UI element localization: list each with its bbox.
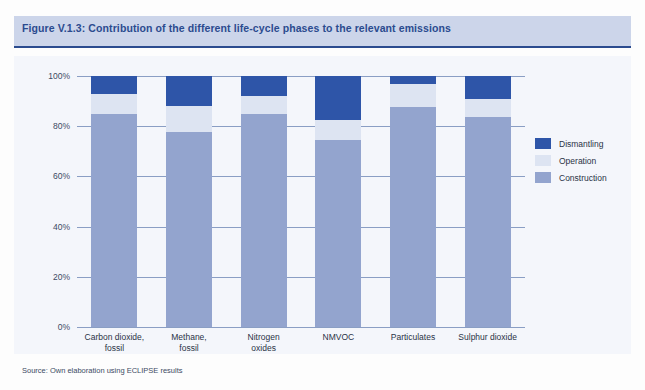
bar-segment-construction <box>465 117 511 327</box>
figure-title-band: Figure V.1.3: Contribution of the differ… <box>14 16 631 46</box>
bar-segment-operation <box>241 96 287 114</box>
y-axis-tick-label: 60% <box>10 171 70 181</box>
legend-label: Construction <box>559 173 607 183</box>
chart-plate: 0%20%40%60%80%100%Carbon dioxide,fossilM… <box>14 56 631 354</box>
bar-segment-dismantling <box>91 76 137 94</box>
legend-swatch-icon <box>535 155 551 166</box>
bar-segment-construction <box>390 107 436 327</box>
legend-swatch-icon <box>535 138 551 149</box>
bar-group <box>241 76 287 327</box>
gridline-100 <box>77 76 525 77</box>
figure-page: Figure V.1.3: Contribution of the differ… <box>0 0 645 390</box>
title-underline-rule <box>14 46 631 48</box>
legend-item: Construction <box>535 170 607 185</box>
bar-group <box>315 76 361 327</box>
bar-segment-dismantling <box>390 76 436 84</box>
gridline-20 <box>77 277 525 278</box>
gridline-0 <box>77 327 525 328</box>
bar-segment-construction <box>241 114 287 327</box>
bar-group <box>465 76 511 327</box>
bar-group <box>91 76 137 327</box>
bar-segment-operation <box>315 120 361 140</box>
gridline-80 <box>77 126 525 127</box>
gridline-40 <box>77 227 525 228</box>
bar-segment-operation <box>166 106 212 132</box>
plot-area: 0%20%40%60%80%100%Carbon dioxide,fossilM… <box>77 76 525 327</box>
bar-segment-dismantling <box>166 76 212 106</box>
chart-legend: DismantlingOperationConstruction <box>535 136 607 187</box>
y-axis-tick-label: 100% <box>10 71 70 81</box>
legend-label: Operation <box>559 156 596 166</box>
bar-segment-dismantling <box>465 76 511 99</box>
legend-item: Dismantling <box>535 136 607 151</box>
y-axis-tick-label: 80% <box>10 121 70 131</box>
x-axis-category-label: Sulphur dioxide <box>442 332 534 343</box>
bar-segment-construction <box>91 114 137 327</box>
bar-segment-operation <box>390 84 436 108</box>
bar-segment-construction <box>166 132 212 327</box>
bar-segment-construction <box>315 140 361 327</box>
y-axis-tick-label: 20% <box>10 272 70 282</box>
source-note: Source: Own elaboration using ECLIPSE re… <box>22 366 183 375</box>
bar-segment-dismantling <box>315 76 361 120</box>
legend-item: Operation <box>535 153 607 168</box>
legend-swatch-icon <box>535 172 551 183</box>
bar-group <box>390 76 436 327</box>
y-axis-tick-label: 0% <box>10 322 70 332</box>
gridline-60 <box>77 176 525 177</box>
y-axis-tick-label: 40% <box>10 222 70 232</box>
legend-label: Dismantling <box>559 139 603 149</box>
bar-segment-operation <box>465 99 511 118</box>
bar-segment-operation <box>91 94 137 114</box>
figure-title: Figure V.1.3: Contribution of the differ… <box>22 22 451 34</box>
bar-group <box>166 76 212 327</box>
bar-segment-dismantling <box>241 76 287 96</box>
